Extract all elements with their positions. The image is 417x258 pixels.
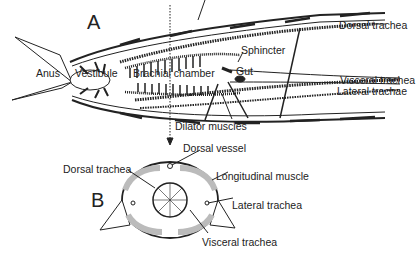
dilator-muscle bbox=[205, 82, 248, 120]
panel-label-a: A bbox=[87, 12, 100, 32]
label-branchial-chamber: Brachial chamber bbox=[133, 68, 215, 79]
label-visceral-trachea-b: Visceral trachea bbox=[202, 237, 277, 248]
label-vestibule: Vestibule bbox=[75, 68, 118, 79]
label-longitudinal-muscle: Longitudinal muscle bbox=[216, 171, 309, 182]
label-sphincter: Sphincter bbox=[241, 45, 285, 56]
anatomy-figure: A B Anus Vestibule Brachial chamber Sphi… bbox=[0, 0, 417, 258]
label-lateral-trachea: Lateral trachea bbox=[232, 200, 302, 211]
label-visceral-trachea-a: Visceral trachea bbox=[340, 75, 415, 86]
label-dorsal-trachea-b: Dorsal trachea bbox=[63, 164, 131, 175]
label-lateral-trachae: Lateral trachae bbox=[337, 86, 407, 97]
label-dorsal-vessel: Dorsal vessel bbox=[183, 143, 246, 154]
label-anus: Anus bbox=[36, 68, 60, 79]
panel-label-b: B bbox=[91, 190, 104, 210]
anal-valve-lower bbox=[12, 82, 72, 100]
label-dorsal-trachea-a: Dorsal trachea bbox=[339, 20, 407, 31]
label-gut: Gut bbox=[236, 66, 253, 77]
label-dilator-muscles: Dilator muscles bbox=[175, 121, 247, 132]
